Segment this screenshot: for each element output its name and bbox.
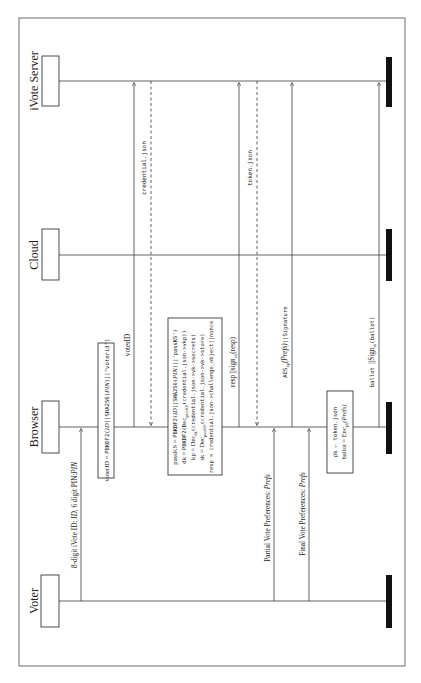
- actor-label-voter: Voter: [27, 588, 41, 614]
- message-label: token.json: [246, 150, 254, 187]
- actor-label-cloud: Cloud: [27, 240, 41, 269]
- message-partial-preferences: Partial Vote Preferences: Prefs: [264, 429, 274, 601]
- svg-text:voterID = PBKDF2(ID||SHA256(PI: voterID = PBKDF2(ID||SHA256(PIN)||"voter…: [103, 339, 111, 482]
- svg-text:resp = credential.json->challe: resp = credential.json->challenge_object…: [208, 321, 215, 474]
- end-bar-cloud: [386, 229, 392, 281]
- message-token-json: token.json: [246, 81, 257, 425]
- message-label: 8-digit iVote ID: ID, 6 digit PIN:PIN: [71, 461, 79, 568]
- message-label: Final Vote Preferences: Prefs: [299, 472, 307, 556]
- end-bar-ivote: [386, 57, 392, 107]
- message-label: voterID: [124, 334, 132, 356]
- message-label: resp ||signsk(resp): [229, 336, 238, 386]
- sequence-diagram: iVote Server Cloud Browser Voter 8-d: [0, 0, 421, 683]
- end-bar-voter: [386, 575, 392, 628]
- actor-box-ivote: [42, 56, 59, 106]
- actor-box-browser: [42, 401, 59, 453]
- note-ballot-encryption: pk ← token.json ballot = Encpk(Prefs): [327, 391, 353, 473]
- message-label: Partial Vote Preferences: Prefs: [264, 474, 272, 562]
- note-voterid-computation: voterID = PBKDF2(ID||SHA256(PIN)||"voter…: [98, 339, 114, 482]
- svg-text:passKS = PBKDF2(ID||SHA256(PIN: passKS = PBKDF2(ID||SHA256(PIN)||"passKS…: [171, 329, 179, 464]
- lifeline-ivote-server: iVote Server: [27, 51, 392, 110]
- actor-box-cloud: [42, 229, 59, 280]
- lifeline-cloud: Cloud: [27, 229, 392, 281]
- actor-label-browser: Browser: [27, 407, 41, 448]
- message-voter-credentials: 8-digit iVote ID: ID, 6 digit PIN:PIN: [71, 429, 81, 601]
- actor-label-ivote: iVote Server: [27, 51, 41, 110]
- lifeline-voter: Voter: [27, 575, 392, 628]
- message-final-preferences: Final Vote Preferences: Prefs: [299, 429, 309, 601]
- message-label: credential.json: [140, 141, 148, 196]
- message-label: ballot ||Signsk(ballot): [368, 317, 377, 388]
- svg-text:pk ← token.json: pk ← token.json: [331, 407, 339, 457]
- end-bar-browser: [386, 402, 392, 454]
- message-credential-json: credential.json: [140, 81, 151, 425]
- message-label: AESkp(Prefs)||Signature: [281, 306, 290, 378]
- actor-box-voter: [41, 575, 59, 627]
- note-key-derivation: passKS = PBKDF2(ID||SHA256(PIN)||"passKS…: [168, 318, 222, 475]
